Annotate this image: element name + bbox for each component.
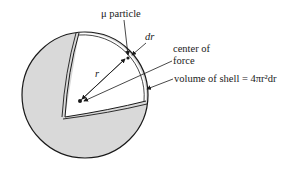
shell-volume-label: volume of shell = 4πr²dr [174, 73, 276, 84]
particle-dot [126, 56, 129, 59]
particle-label: μ particle [101, 8, 141, 19]
radius-label: r [95, 68, 99, 79]
shell-volume-leader [147, 79, 173, 89]
dr-pointer [132, 43, 146, 55]
center-of-force-label-line1: center of [173, 43, 210, 54]
sphere-diagram [0, 0, 302, 170]
dr-label: dr [145, 31, 154, 42]
center-of-force-label-line2: force [173, 55, 195, 66]
